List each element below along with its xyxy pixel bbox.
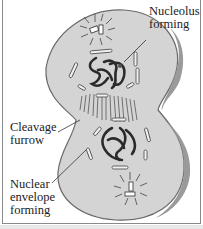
- label-cleavage-furrow: Cleavage furrow: [10, 121, 57, 147]
- label-nucleolus-forming: Nucleolus forming: [149, 5, 200, 31]
- label-nuclear-envelope-forming: Nuclear envelope forming: [10, 178, 55, 217]
- cell-membrane: [46, 10, 184, 220]
